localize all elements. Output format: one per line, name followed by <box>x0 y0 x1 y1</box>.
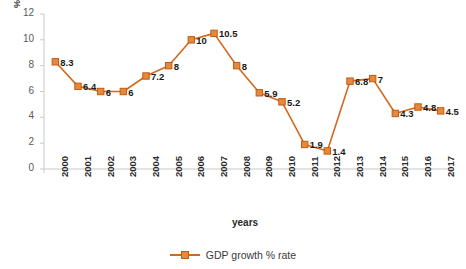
x-tick-label: 2013 <box>354 156 365 177</box>
x-tick-label: 2010 <box>286 156 297 177</box>
data-label: 4.8 <box>423 102 436 113</box>
data-label: 7 <box>378 74 383 85</box>
data-label: 5.2 <box>287 97 300 108</box>
data-label: 10 <box>196 35 207 46</box>
x-tick-label: 2016 <box>422 156 433 177</box>
x-tick-label: 2008 <box>241 156 252 177</box>
data-label: 7.2 <box>151 71 164 82</box>
x-tick-label: 2014 <box>377 156 388 177</box>
data-label: 4.5 <box>446 106 459 117</box>
y-tick-label: 0 <box>14 162 34 173</box>
data-label: 8.3 <box>60 57 73 68</box>
x-tick-label: 2006 <box>195 156 206 177</box>
x-tick-label: 2015 <box>399 156 410 177</box>
x-tick-label: 2000 <box>59 156 70 177</box>
data-label: 6.8 <box>355 76 368 87</box>
y-tick-label: 4 <box>14 110 34 121</box>
y-tick-label: 12 <box>14 7 34 18</box>
chart-legend: GDP growth % rate <box>0 249 466 261</box>
data-label: 8 <box>174 61 179 72</box>
y-tick-label: 8 <box>14 59 34 70</box>
data-label: 1.4 <box>332 146 345 157</box>
legend-label-gdp-growth: GDP growth % rate <box>206 249 296 261</box>
x-tick-label: 2012 <box>331 156 342 177</box>
data-label: 10.5 <box>219 28 238 39</box>
plot-area <box>0 0 466 269</box>
y-tick-label: 2 <box>14 136 34 147</box>
x-tick-label: 2003 <box>127 156 138 177</box>
x-axis-title: years <box>232 217 258 228</box>
y-tick-label: 6 <box>14 85 34 96</box>
x-tick-label: 2005 <box>173 156 184 177</box>
data-label: 8 <box>242 61 247 72</box>
data-label: 1.9 <box>310 139 323 150</box>
legend-marker-icon <box>170 250 200 260</box>
data-label: 6 <box>128 87 133 98</box>
x-tick-label: 2007 <box>218 156 229 177</box>
x-tick-label: 2001 <box>82 156 93 177</box>
data-label: 6.4 <box>83 81 96 92</box>
x-tick-label: 2004 <box>150 156 161 177</box>
chart-container: % 024681012 2000200120022003200420052006… <box>0 0 466 269</box>
x-tick-label: 2009 <box>263 156 274 177</box>
x-tick-label: 2017 <box>445 156 456 177</box>
data-label: 6 <box>106 87 111 98</box>
x-tick-label: 2011 <box>309 156 320 177</box>
x-tick-label: 2002 <box>105 156 116 177</box>
y-tick-label: 10 <box>14 33 34 44</box>
data-label: 5.9 <box>264 88 277 99</box>
data-label: 4.3 <box>400 108 413 119</box>
